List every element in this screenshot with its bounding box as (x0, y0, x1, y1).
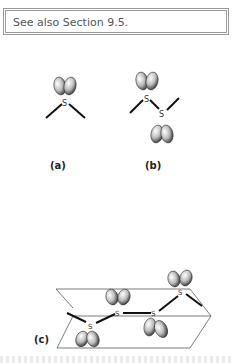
panel-c-molecule: S S S S (56, 269, 211, 349)
panel-b-label: (b) (145, 160, 161, 171)
panel-a-label: (a) (50, 160, 66, 171)
svg-text:S: S (88, 323, 93, 331)
panel-a-molecule: S (46, 76, 85, 118)
svg-text:S: S (178, 289, 183, 297)
svg-text:S: S (144, 95, 149, 104)
svg-text:S: S (159, 110, 164, 119)
cut-off-caption-strip (0, 356, 233, 363)
panel-c-label: (c) (34, 334, 49, 345)
panel-b-molecule: S S (130, 71, 179, 144)
sulfur-orbital-figure: S S S S S S S (0, 0, 233, 363)
svg-text:S: S (115, 310, 120, 318)
sulfur-atom-label: S (62, 99, 67, 108)
svg-text:S: S (151, 310, 156, 318)
